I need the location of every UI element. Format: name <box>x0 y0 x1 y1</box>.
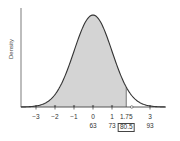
y-axis-label: Density <box>8 32 14 66</box>
raw-score-label: 93 <box>146 123 153 130</box>
raw-score-label: 63 <box>89 123 96 130</box>
z-tick-label: 1 <box>110 114 114 121</box>
z-tick-label: −1 <box>70 114 77 121</box>
z-tick-label: −3 <box>32 114 39 121</box>
z-tick-label: 3 <box>148 114 152 121</box>
raw-score-label: 73 <box>108 123 115 130</box>
shaded-area-below-1.75 <box>21 15 126 107</box>
z-tick-label: 1.75 <box>120 114 133 121</box>
raw-score-boxed-label: 80.5 <box>118 123 135 132</box>
normal-density-chart <box>0 0 180 141</box>
cutoff-marker-icon <box>130 106 133 109</box>
z-tick-label: 0 <box>91 114 95 121</box>
z-tick-label: −2 <box>51 114 58 121</box>
